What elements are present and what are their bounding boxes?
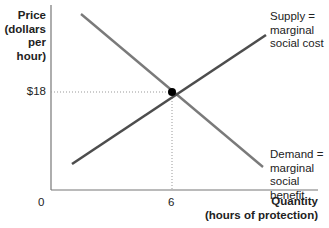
- supply-curve-label: Supply = marginal social cost: [270, 10, 324, 51]
- equilibrium-point: [168, 88, 176, 96]
- x-tick-origin: 0: [38, 196, 44, 208]
- y-axis-label-line: (dollars: [0, 23, 46, 37]
- x-axis-label-line: (hours of protection): [205, 209, 318, 223]
- demand-label-line: Demand =: [270, 148, 329, 162]
- supply-label-line: marginal: [270, 24, 324, 38]
- y-axis-label-line: Price: [0, 9, 46, 23]
- demand-label-line: social benefit: [270, 175, 329, 202]
- y-axis-label: Price (dollars per hour): [0, 9, 46, 63]
- demand-label-line: marginal: [270, 162, 329, 176]
- demand-curve-label: Demand = marginal social benefit: [270, 148, 329, 202]
- y-axis-label-line: hour): [0, 50, 46, 64]
- y-axis-label-line: per: [0, 36, 46, 50]
- supply-label-line: Supply =: [270, 10, 324, 24]
- x-tick-label: 6: [168, 196, 174, 208]
- y-tick-label: $18: [10, 85, 46, 97]
- supply-label-line: social cost: [270, 37, 324, 51]
